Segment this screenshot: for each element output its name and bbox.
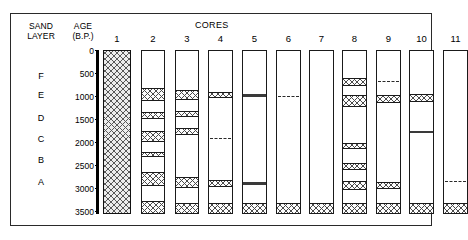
core-sand-band xyxy=(377,203,400,214)
core-number-label: 6 xyxy=(276,33,301,44)
age-tick-label: 3000 xyxy=(60,184,94,194)
core-column[interactable] xyxy=(342,50,367,214)
core-sand-band xyxy=(243,203,266,214)
sand-layer-label: A xyxy=(20,177,62,187)
age-tick-label: 1500 xyxy=(60,115,94,125)
core-sand-band xyxy=(410,203,433,214)
core-correlation-dashed-line xyxy=(209,136,232,139)
core-number-label: 5 xyxy=(242,33,267,44)
age-tick-label: 2500 xyxy=(60,161,94,171)
core-sand-band xyxy=(343,95,366,107)
core-sand-band xyxy=(142,112,164,119)
sand-layer-label: C xyxy=(20,134,62,144)
core-number-label: 8 xyxy=(342,33,367,44)
core-sand-band xyxy=(410,94,433,102)
core-sand-band xyxy=(410,131,433,133)
core-number-label: 3 xyxy=(175,33,199,44)
core-correlation-dashed-line xyxy=(277,94,300,97)
core-sand-band xyxy=(444,203,467,214)
core-number-label: 1 xyxy=(103,33,131,44)
core-sand-band xyxy=(243,182,266,185)
core-sand-band xyxy=(176,90,198,100)
core-number-label: 7 xyxy=(309,33,334,44)
core-sand-band xyxy=(277,203,300,214)
age-tick-label: 0 xyxy=(60,46,94,56)
age-tick-label: 500 xyxy=(60,69,94,79)
sand-layer-label: B xyxy=(20,155,62,165)
core-sand-band xyxy=(209,92,232,98)
sand-layer-heading: SAND LAYER xyxy=(20,22,62,41)
core-sand-band xyxy=(310,203,333,214)
core-correlation-dashed-line xyxy=(377,79,400,82)
age-heading: AGE (B.P.) xyxy=(66,22,100,41)
core-column[interactable] xyxy=(309,50,334,214)
core-sand-band xyxy=(343,143,366,149)
cores-heading: CORES xyxy=(195,21,229,31)
core-sand-band xyxy=(209,203,232,214)
core-sand-band xyxy=(243,94,266,97)
core-column[interactable] xyxy=(443,50,468,214)
core-number-label: 4 xyxy=(208,33,233,44)
core-sand-band xyxy=(209,180,232,187)
core-sand-band xyxy=(142,131,164,142)
core-sand-band xyxy=(343,163,366,170)
core-column[interactable] xyxy=(103,50,131,214)
core-sand-band xyxy=(343,203,366,214)
core-sand-band xyxy=(176,128,198,135)
core-correlation-dashed-line xyxy=(444,179,467,182)
core-sand-band xyxy=(142,152,164,157)
core-sand-band xyxy=(176,111,198,117)
core-column[interactable] xyxy=(376,50,401,214)
core-sand-band xyxy=(343,181,366,190)
core-column[interactable] xyxy=(175,50,199,214)
core-number-label: 9 xyxy=(376,33,401,44)
core-column[interactable] xyxy=(242,50,267,214)
sand-layer-label: E xyxy=(20,90,62,100)
core-number-label: 2 xyxy=(141,33,165,44)
core-column[interactable] xyxy=(208,50,233,214)
core-number-label: 11 xyxy=(443,33,468,44)
core-sand-band xyxy=(176,203,198,214)
core-sand-band xyxy=(377,95,400,103)
core-sand-band xyxy=(142,201,164,214)
age-tick-label: 3500 xyxy=(60,207,94,217)
core-sand-band xyxy=(176,177,198,188)
age-axis-line xyxy=(96,50,99,214)
core-column[interactable] xyxy=(276,50,301,214)
core-column[interactable] xyxy=(141,50,165,214)
core-number-label: 10 xyxy=(409,33,434,44)
core-sand-band xyxy=(142,88,164,101)
sand-layer-label: D xyxy=(20,113,62,123)
core-sand-band xyxy=(377,182,400,189)
core-sand-band xyxy=(343,78,366,86)
core-column[interactable] xyxy=(409,50,434,214)
age-tick-label: 2000 xyxy=(60,138,94,148)
sand-layer-label: F xyxy=(20,71,62,81)
age-tick-label: 1000 xyxy=(60,92,94,102)
core-sand-band xyxy=(142,172,164,186)
